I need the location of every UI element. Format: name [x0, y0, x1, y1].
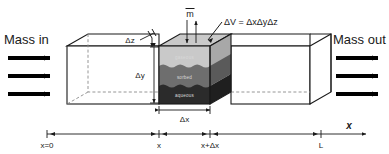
- delta-z-label: Δz: [125, 36, 134, 45]
- phase-label-aqueous: aqueous: [175, 93, 195, 98]
- volume-equation-label: ΔV = ΔxΔyΔz: [224, 17, 278, 27]
- duct-right-front-face: [231, 46, 310, 104]
- phase-label-gaseous: gaseous: [175, 55, 194, 60]
- control-volume-diagram: gaseous sorbed aqueous Mass in Mass out …: [0, 0, 389, 154]
- duct-left-segment: [67, 34, 159, 104]
- mdot-label: m: [186, 9, 194, 19]
- delta-y-label: Δy: [135, 71, 144, 80]
- delta-x-label: Δx: [180, 115, 189, 124]
- x-axis-tick-label-length: L: [319, 141, 324, 150]
- control-volume-block: gaseous sorbed aqueous: [159, 34, 231, 104]
- duct-right-end-face: [310, 34, 331, 104]
- x-axis-name-label: x: [345, 120, 352, 131]
- duct-left-front-face: [67, 46, 159, 104]
- x-axis-tick-label-x: x: [157, 141, 161, 150]
- phase-label-sorbed: sorbed: [177, 75, 192, 80]
- mass-in-label: Mass in: [4, 32, 49, 47]
- x-axis-tick-label-xdx: x+Δx: [201, 141, 219, 150]
- x-axis-tick-label-origin: x=0: [40, 141, 54, 150]
- mass-out-label: Mass out: [333, 32, 386, 47]
